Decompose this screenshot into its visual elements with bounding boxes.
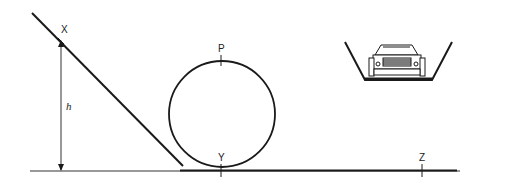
label-z: Z bbox=[419, 153, 425, 163]
loop-track-diagram: X h P Y Z bbox=[0, 0, 529, 185]
label-x: X bbox=[61, 25, 68, 35]
label-h: h bbox=[66, 101, 72, 112]
incline-ramp bbox=[32, 13, 183, 166]
label-y: Y bbox=[218, 153, 225, 163]
car-icon bbox=[369, 45, 425, 76]
diagram-canvas bbox=[0, 0, 529, 185]
car-channel-inset bbox=[345, 42, 452, 80]
label-p: P bbox=[218, 44, 225, 54]
height-arrow bbox=[58, 40, 64, 171]
